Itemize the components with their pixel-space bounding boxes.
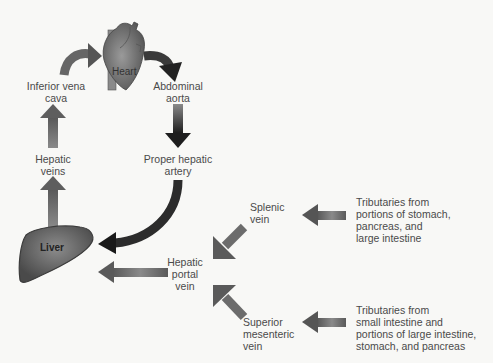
heart-label: Heart — [112, 66, 136, 77]
label-inferior-vena-cava: Inferior vena cava — [16, 80, 96, 104]
arrow-portal-to-liver — [98, 261, 168, 283]
arrow-tributaries-to-splenic — [302, 204, 346, 226]
arrow-splenic-to-portal — [213, 227, 244, 259]
arrow-aorta-to-artery — [165, 104, 191, 148]
label-proper-hepatic-artery: Proper hepatic artery — [133, 153, 223, 177]
arrow-heart-to-aorta — [144, 56, 182, 82]
label-hepatic-portal-vein: Hepatic portal vein — [164, 256, 206, 292]
hepatic-portal-diagram: Heart Liver Inferior vena cava Abdominal… — [0, 0, 493, 363]
label-superior-mesenteric-vein: Superior mesenteric vein — [243, 316, 294, 352]
label-splenic-vein: Splenic vein — [250, 201, 284, 225]
arrow-artery-to-liver — [98, 180, 178, 254]
arrow-smv-to-portal — [213, 285, 244, 317]
label-abdominal-aorta: Abdominal aorta — [143, 80, 213, 104]
arrow-hepatic-veins-to-ivc — [40, 104, 66, 148]
heart-illustration — [103, 22, 144, 90]
liver-label: Liver — [40, 242, 64, 253]
liver-illustration — [19, 226, 93, 282]
arrow-tributaries-to-smv — [302, 311, 346, 333]
arrow-ivc-to-heart — [64, 43, 102, 75]
label-tributaries-splenic: Tributaries from portions of stomach, pa… — [356, 196, 451, 244]
arrow-liver-to-hepatic-veins — [40, 176, 66, 228]
label-hepatic-veins: Hepatic veins — [18, 153, 88, 177]
label-tributaries-superior-mesenteric: Tributaries from small intestine and por… — [356, 304, 476, 352]
